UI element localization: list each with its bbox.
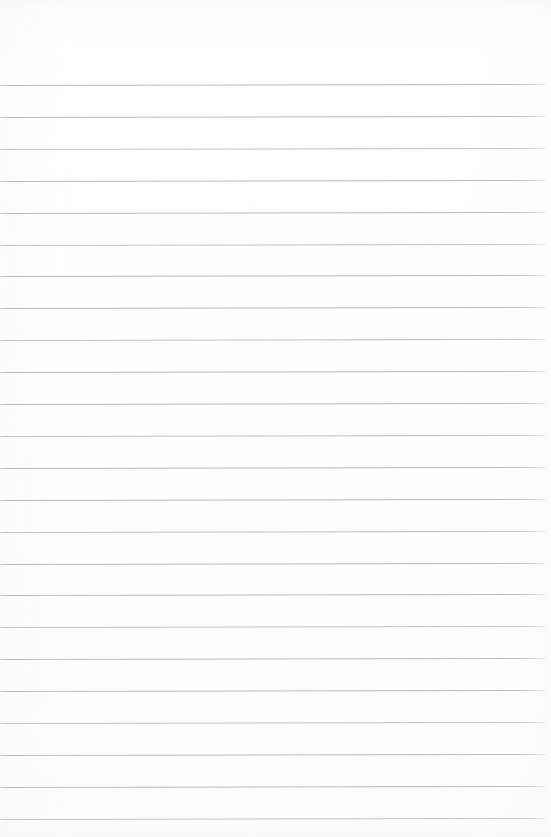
ruled-line: [0, 307, 547, 309]
ruled-line: [0, 180, 547, 182]
lined-paper-page: [0, 0, 551, 837]
ruled-line: [0, 722, 547, 724]
ruled-line: [0, 467, 547, 469]
ruled-line: [0, 371, 547, 373]
ruled-line: [0, 435, 547, 437]
ruled-line: [0, 244, 547, 246]
ruled-line: [0, 499, 547, 501]
ruled-line: [0, 626, 547, 628]
ruled-line: [0, 690, 547, 692]
ruled-lines-area: [0, 0, 551, 837]
ruled-line: [0, 786, 547, 788]
ruled-line: [0, 148, 547, 150]
ruled-line: [0, 275, 547, 277]
ruled-line: [0, 754, 547, 756]
ruled-line: [0, 212, 547, 214]
ruled-line: [0, 818, 547, 820]
ruled-line: [0, 658, 547, 660]
ruled-line: [0, 116, 547, 118]
ruled-line: [0, 563, 547, 565]
ruled-line: [0, 403, 547, 405]
ruled-line: [0, 339, 547, 341]
ruled-line: [0, 84, 547, 86]
ruled-line: [0, 531, 547, 533]
ruled-line: [0, 594, 547, 596]
